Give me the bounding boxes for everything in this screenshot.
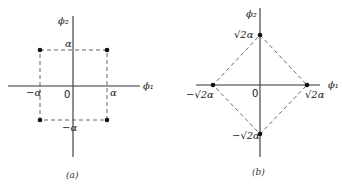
tick-x-neg-a: −α — [26, 87, 41, 98]
tick-y-neg-a: −α — [62, 122, 77, 133]
panel-b: ϕ₂ ϕ₁ 0 √2α −√2α √2α −√2α (b) — [186, 8, 339, 177]
caption-a: (a) — [66, 170, 79, 180]
point-neg-neg — [38, 118, 43, 123]
tick-x-neg-b: −√2α — [186, 89, 214, 100]
point-pos-neg — [105, 118, 110, 123]
point-neg-pos — [38, 48, 43, 53]
point-left — [211, 83, 216, 88]
caption-b: (b) — [252, 167, 265, 177]
phi1-label-b: ϕ₁ — [328, 79, 339, 90]
tick-y-pos-a: α — [65, 38, 72, 49]
point-right — [305, 83, 310, 88]
origin-label-b: 0 — [252, 88, 258, 99]
tick-y-pos-b: √2α — [234, 29, 254, 40]
point-top — [258, 33, 263, 38]
tick-x-pos-a: α — [110, 87, 117, 98]
point-pos-pos — [105, 48, 110, 53]
tick-x-pos-b: √2α — [305, 89, 325, 100]
origin-label-a: 0 — [64, 89, 70, 100]
phi2-label-a: ϕ₂ — [58, 15, 69, 26]
phi1-label-a: ϕ₁ — [143, 80, 154, 91]
panel-a: ϕ₂ ϕ₁ 0 α −α α −α (a) — [8, 15, 154, 180]
diagram-canvas: ϕ₂ ϕ₁ 0 α −α α −α (a) ϕ₂ ϕ₁ 0 √2α −√2α √… — [0, 0, 342, 187]
tick-y-neg-b: −√2α — [232, 130, 260, 141]
phi2-label-b: ϕ₂ — [246, 8, 257, 19]
